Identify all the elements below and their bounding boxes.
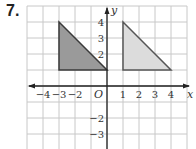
- x-tick-label: −3: [52, 89, 67, 100]
- origin-label: O: [94, 88, 103, 101]
- y-axis-label: y: [110, 4, 118, 17]
- x-tick-label: −4: [36, 89, 51, 100]
- image-triangle: [123, 22, 171, 70]
- y-tick-label: 3: [98, 33, 104, 44]
- y-tick-label: 4: [98, 17, 104, 28]
- x-tick-label: 4: [168, 89, 174, 100]
- x-axis-label: x: [187, 88, 194, 101]
- x-axis-arrow-left-icon: [28, 84, 35, 89]
- shapes: [59, 22, 171, 70]
- coordinate-grid: −4−3−21234432−2−3Oxy: [0, 0, 196, 149]
- original-triangle: [59, 22, 107, 70]
- y-axis-arrow-up-icon: [105, 7, 110, 14]
- axes: [28, 7, 190, 149]
- y-tick-label: −3: [89, 129, 104, 140]
- y-tick-label: −2: [89, 113, 104, 124]
- x-tick-label: 2: [136, 89, 142, 100]
- y-tick-label: 2: [98, 49, 104, 60]
- x-tick-label: −2: [68, 89, 83, 100]
- x-tick-label: 3: [152, 89, 158, 100]
- x-tick-label: 1: [120, 89, 126, 100]
